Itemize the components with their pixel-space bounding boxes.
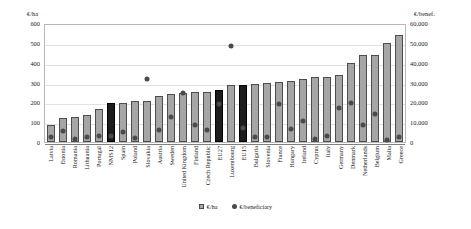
bar-group[interactable] <box>93 25 105 142</box>
x-axis-tick-label: France <box>276 146 283 163</box>
data-point-marker[interactable] <box>217 102 222 107</box>
bar[interactable] <box>179 93 187 142</box>
x-axis-tick-label: Sweden <box>167 146 174 166</box>
data-point-marker[interactable] <box>61 128 66 133</box>
data-point-marker[interactable] <box>109 133 114 138</box>
bar[interactable] <box>359 55 367 142</box>
bar-group[interactable] <box>357 25 369 142</box>
data-point-marker[interactable] <box>85 135 90 140</box>
x-label-slot: Czech Republic <box>201 145 213 201</box>
data-point-marker[interactable] <box>325 134 330 139</box>
bar-group[interactable] <box>249 25 261 142</box>
bar[interactable] <box>203 92 211 142</box>
bar-group[interactable] <box>153 25 165 142</box>
left-axis-title: €/ha <box>27 10 38 17</box>
x-axis-tick-label: Poland <box>131 146 138 163</box>
bar-group[interactable] <box>393 25 405 142</box>
bar-group[interactable] <box>105 25 117 142</box>
data-point-marker[interactable] <box>361 122 366 127</box>
left-axis-tick-label: 500 <box>18 40 40 47</box>
bar-group[interactable] <box>321 25 333 142</box>
right-axis-tick-label: 40,000 <box>410 60 450 67</box>
bar-group[interactable] <box>177 25 189 142</box>
bar[interactable] <box>371 55 379 142</box>
data-point-marker[interactable] <box>181 91 186 96</box>
data-point-marker[interactable] <box>253 135 258 140</box>
x-axis-tick-label: Italy <box>324 146 331 157</box>
bar[interactable] <box>383 43 391 142</box>
data-point-marker[interactable] <box>337 105 342 110</box>
bar-group[interactable] <box>129 25 141 142</box>
bar-group[interactable] <box>369 25 381 142</box>
data-point-marker[interactable] <box>193 123 198 128</box>
bar[interactable] <box>239 85 247 142</box>
x-label-slot: Romania <box>68 145 80 201</box>
bar-group[interactable] <box>189 25 201 142</box>
bar-group[interactable] <box>261 25 273 142</box>
legend-label: €/beneficiary <box>240 203 273 210</box>
data-point-marker[interactable] <box>349 100 354 105</box>
legend-item[interactable]: €/beneficiary <box>232 203 273 210</box>
bar-group[interactable] <box>273 25 285 142</box>
bar-group[interactable] <box>45 25 57 142</box>
bar-group[interactable] <box>165 25 177 142</box>
x-label-slot: Belgium <box>370 145 382 201</box>
plot-area <box>44 24 406 143</box>
bar[interactable] <box>227 85 235 142</box>
bar[interactable] <box>275 82 283 142</box>
bar[interactable] <box>287 81 295 142</box>
data-point-marker[interactable] <box>73 137 78 142</box>
bar[interactable] <box>191 92 199 142</box>
bar-group[interactable] <box>141 25 153 142</box>
data-point-marker[interactable] <box>241 125 246 130</box>
bar-group[interactable] <box>201 25 213 142</box>
bar-group[interactable] <box>117 25 129 142</box>
bar-group[interactable] <box>57 25 69 142</box>
data-point-marker[interactable] <box>229 44 234 49</box>
bar[interactable] <box>215 90 223 142</box>
bar[interactable] <box>251 84 259 143</box>
bar-group[interactable] <box>345 25 357 142</box>
legend-item[interactable]: €/ha <box>199 203 218 210</box>
bar-group[interactable] <box>285 25 297 142</box>
bar[interactable] <box>143 101 151 142</box>
x-axis-tick-label: Estonia <box>59 146 66 165</box>
data-point-marker[interactable] <box>313 137 318 142</box>
data-point-marker[interactable] <box>277 101 282 106</box>
bar[interactable] <box>323 77 331 142</box>
data-point-marker[interactable] <box>169 114 174 119</box>
bar[interactable] <box>119 103 127 142</box>
data-point-marker[interactable] <box>205 127 210 132</box>
data-point-marker[interactable] <box>97 134 102 139</box>
x-label-slot: Germany <box>334 145 346 201</box>
data-point-marker[interactable] <box>157 128 162 133</box>
data-point-marker[interactable] <box>289 126 294 131</box>
bar-group[interactable] <box>69 25 81 142</box>
x-label-slot: Estonia <box>56 145 68 201</box>
data-point-marker[interactable] <box>145 76 150 81</box>
bar-group[interactable] <box>381 25 393 142</box>
bar-group[interactable] <box>309 25 321 142</box>
legend-label: €/ha <box>207 203 218 210</box>
bar-group[interactable] <box>237 25 249 142</box>
bar-group[interactable] <box>81 25 93 142</box>
x-axis-tick-label: Portugal <box>95 146 102 167</box>
data-point-marker[interactable] <box>133 135 138 140</box>
data-point-marker[interactable] <box>397 135 402 140</box>
bar-group[interactable] <box>333 25 345 142</box>
left-axis-tick-label: 200 <box>18 99 40 106</box>
bar[interactable] <box>311 77 319 142</box>
data-point-marker[interactable] <box>121 129 126 134</box>
x-axis-tick-label: Austria <box>155 146 162 164</box>
data-point-marker[interactable] <box>385 137 390 142</box>
bar[interactable] <box>299 79 307 142</box>
bar-group[interactable] <box>297 25 309 142</box>
data-point-marker[interactable] <box>49 135 54 140</box>
data-point-marker[interactable] <box>373 112 378 117</box>
data-point-marker[interactable] <box>265 134 270 139</box>
data-point-marker[interactable] <box>301 119 306 124</box>
bar-group[interactable] <box>213 25 225 142</box>
bar[interactable] <box>155 96 163 142</box>
bar-group[interactable] <box>225 25 237 142</box>
bar[interactable] <box>395 35 403 142</box>
